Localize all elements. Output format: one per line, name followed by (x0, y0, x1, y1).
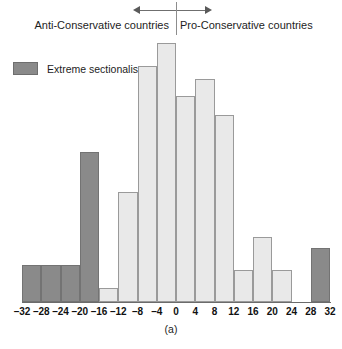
bar-0-to-4 (176, 96, 195, 302)
x-tick-label: 28 (305, 305, 316, 319)
bar--20-to--16 (80, 152, 99, 302)
bar--32-to--28 (22, 265, 41, 302)
x-tick-label: 0 (173, 305, 179, 319)
x-tick-label: 32 (324, 305, 335, 319)
arrow-left-icon (133, 6, 140, 14)
x-tick-label: 20 (267, 305, 278, 319)
x-tick-label: –16 (91, 305, 108, 319)
x-tick-label: –28 (33, 305, 50, 319)
bar--4-to-0 (157, 43, 176, 302)
bar-12-to-16 (234, 270, 253, 302)
x-tick-label: –8 (132, 305, 143, 319)
x-tick-label: 12 (228, 305, 239, 319)
bar-20-to-24 (272, 270, 291, 302)
bar--12-to--8 (118, 192, 137, 302)
x-tick-label: –12 (110, 305, 127, 319)
bar--24-to--20 (61, 265, 80, 302)
anti-conservative-label: Anti-Conservative countries (34, 17, 169, 33)
side-labels: Anti-Conservative countries Pro-Conserva… (0, 17, 342, 35)
direction-arrows (0, 4, 342, 16)
pro-conservative-label: Pro-Conservative countries (180, 17, 313, 33)
x-tick-label: –32 (14, 305, 31, 319)
bar--28-to--24 (41, 265, 60, 302)
plot-area (22, 36, 330, 302)
x-axis-line (22, 302, 331, 303)
arrow-right-icon (205, 6, 212, 14)
bar-28-to-32 (311, 248, 330, 302)
bar--16-to--12 (99, 288, 118, 302)
x-tick-label: –24 (52, 305, 69, 319)
x-tick-label: –20 (71, 305, 88, 319)
x-axis-ticks: –32–28–24–20–16–12–8–4048121620242832 (22, 305, 331, 321)
bar-8-to-12 (215, 115, 234, 302)
x-tick-label: 4 (192, 305, 198, 319)
arrow-left-line (140, 10, 176, 11)
bar-16-to-20 (253, 237, 272, 302)
bar--8-to--4 (138, 66, 157, 302)
x-tick-label: 16 (247, 305, 258, 319)
bar-4-to-8 (195, 79, 214, 302)
figure-caption: (a) (0, 323, 342, 335)
x-tick-label: –4 (151, 305, 162, 319)
histogram-figure: Anti-Conservative countries Pro-Conserva… (0, 0, 342, 349)
x-tick-label: 8 (212, 305, 218, 319)
x-tick-label: 24 (286, 305, 297, 319)
